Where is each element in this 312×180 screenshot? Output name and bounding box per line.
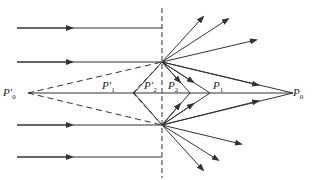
label-P2: P2: [168, 80, 178, 94]
label-P1-prime: P′1: [102, 80, 115, 94]
label-P2-prime: P′2: [144, 80, 157, 94]
label-P1: P1: [213, 80, 223, 94]
label-P0-prime: P′0: [3, 87, 16, 101]
optics-diagram: P′0 P′1 P′2 P2 P1 P0: [0, 0, 312, 180]
label-P0: P0: [293, 87, 303, 101]
